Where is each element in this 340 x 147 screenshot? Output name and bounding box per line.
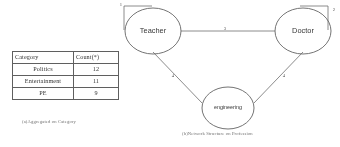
edge-label-doctor-engineering: 4	[283, 73, 286, 78]
edge-teacher-engineering	[153, 52, 202, 103]
panel-b-caption: (b)Network Structure on Profession	[182, 131, 253, 136]
figure-root: Category Count(*) Politics 12 Entertainm…	[0, 0, 340, 147]
cell-category-politics: Politics	[13, 64, 74, 76]
self-loop-label-teacher: 1	[120, 2, 123, 7]
network-diagram-svg: Teacher Doctor engineering 1 2 3 4 4	[112, 0, 340, 147]
aggregate-table: Category Count(*) Politics 12 Entertainm…	[12, 51, 119, 100]
table-row: Entertainment 11	[13, 76, 119, 88]
table-row: Politics 12	[13, 64, 119, 76]
table-row: PE 9	[13, 88, 119, 100]
node-doctor-label: Doctor	[292, 26, 314, 35]
edge-label-teacher-doctor: 3	[224, 26, 227, 31]
node-engineering-label: engineering	[214, 104, 242, 110]
panel-b-network-graph: Teacher Doctor engineering 1 2 3 4 4	[112, 0, 340, 147]
cell-category-pe: PE	[13, 88, 74, 100]
table-header-category: Category	[13, 52, 74, 64]
self-loop-label-doctor: 2	[333, 7, 336, 12]
table-header-row: Category Count(*)	[13, 52, 119, 64]
edge-doctor-engineering	[254, 52, 303, 103]
node-teacher-label: Teacher	[140, 26, 167, 35]
panel-a-aggregated-table: Category Count(*) Politics 12 Entertainm…	[12, 51, 108, 100]
cell-category-entertainment: Entertainment	[13, 76, 74, 88]
panel-a-caption: (a)Aggregated on Category	[22, 119, 76, 124]
